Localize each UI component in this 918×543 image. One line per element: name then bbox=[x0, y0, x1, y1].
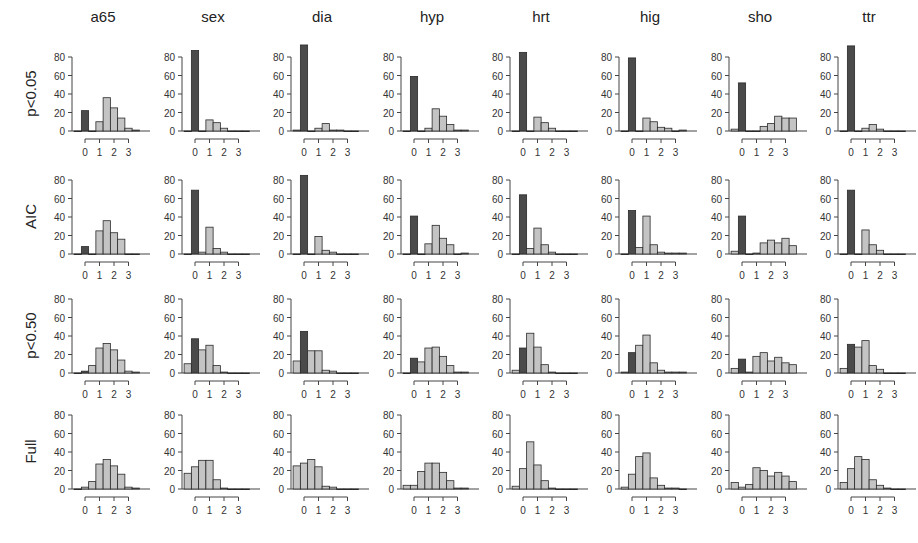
column-title: ttr bbox=[839, 8, 899, 25]
svg-text:0: 0 bbox=[192, 147, 198, 158]
svg-text:20: 20 bbox=[54, 466, 66, 477]
svg-text:2: 2 bbox=[877, 389, 883, 400]
svg-text:0: 0 bbox=[497, 484, 503, 495]
svg-text:1: 1 bbox=[97, 147, 103, 158]
svg-text:60: 60 bbox=[492, 194, 504, 205]
svg-text:20: 20 bbox=[164, 231, 176, 242]
svg-text:0: 0 bbox=[629, 270, 635, 281]
svg-text:1: 1 bbox=[97, 389, 103, 400]
histogram-panel: 0204060800123 bbox=[699, 49, 809, 164]
column-title: hig bbox=[620, 8, 680, 25]
histogram-panel: 0204060800123 bbox=[371, 172, 481, 287]
svg-text:0: 0 bbox=[192, 270, 198, 281]
svg-text:60: 60 bbox=[54, 194, 66, 205]
histogram-panel: 0204060800123 bbox=[42, 49, 152, 164]
column-title: dia bbox=[292, 8, 352, 25]
svg-text:1: 1 bbox=[535, 505, 541, 516]
svg-text:1: 1 bbox=[863, 270, 869, 281]
svg-text:40: 40 bbox=[820, 331, 832, 342]
histogram-panel: 0204060800123 bbox=[480, 407, 590, 522]
svg-text:80: 80 bbox=[492, 175, 504, 186]
svg-text:3: 3 bbox=[345, 147, 351, 158]
svg-text:80: 80 bbox=[492, 294, 504, 305]
histogram-panel: 0204060800123 bbox=[808, 407, 918, 522]
svg-text:60: 60 bbox=[492, 313, 504, 324]
svg-text:3: 3 bbox=[564, 389, 570, 400]
svg-text:1: 1 bbox=[207, 147, 213, 158]
svg-text:60: 60 bbox=[711, 71, 723, 82]
svg-text:0: 0 bbox=[739, 270, 745, 281]
svg-text:80: 80 bbox=[54, 410, 66, 421]
svg-text:1: 1 bbox=[426, 505, 432, 516]
svg-text:0: 0 bbox=[520, 270, 526, 281]
histogram-panel: 0204060800123 bbox=[152, 407, 262, 522]
svg-text:80: 80 bbox=[601, 175, 613, 186]
svg-text:20: 20 bbox=[820, 466, 832, 477]
svg-text:0: 0 bbox=[606, 484, 612, 495]
svg-text:2: 2 bbox=[111, 147, 117, 158]
column-title: sho bbox=[730, 8, 790, 25]
svg-text:3: 3 bbox=[673, 389, 679, 400]
svg-text:80: 80 bbox=[273, 175, 285, 186]
svg-text:60: 60 bbox=[273, 313, 285, 324]
svg-text:3: 3 bbox=[236, 147, 242, 158]
svg-text:20: 20 bbox=[164, 466, 176, 477]
svg-text:20: 20 bbox=[273, 350, 285, 361]
svg-text:2: 2 bbox=[330, 147, 336, 158]
svg-text:1: 1 bbox=[754, 147, 760, 158]
svg-text:60: 60 bbox=[383, 71, 395, 82]
svg-text:0: 0 bbox=[301, 147, 307, 158]
svg-text:3: 3 bbox=[236, 505, 242, 516]
svg-text:3: 3 bbox=[892, 505, 898, 516]
svg-text:60: 60 bbox=[383, 194, 395, 205]
svg-text:40: 40 bbox=[164, 447, 176, 458]
svg-text:1: 1 bbox=[535, 389, 541, 400]
svg-text:1: 1 bbox=[644, 505, 650, 516]
svg-text:0: 0 bbox=[59, 484, 65, 495]
svg-text:80: 80 bbox=[492, 52, 504, 63]
svg-text:2: 2 bbox=[440, 147, 446, 158]
svg-text:20: 20 bbox=[273, 108, 285, 119]
svg-text:1: 1 bbox=[316, 389, 322, 400]
svg-text:60: 60 bbox=[383, 313, 395, 324]
svg-text:80: 80 bbox=[383, 294, 395, 305]
svg-text:60: 60 bbox=[820, 71, 832, 82]
svg-text:40: 40 bbox=[601, 447, 613, 458]
svg-text:1: 1 bbox=[863, 389, 869, 400]
svg-text:40: 40 bbox=[54, 331, 66, 342]
column-title: sex bbox=[183, 8, 243, 25]
svg-text:0: 0 bbox=[716, 126, 722, 137]
svg-text:0: 0 bbox=[388, 368, 394, 379]
row-label: p<0.05 bbox=[22, 59, 39, 129]
svg-text:40: 40 bbox=[601, 89, 613, 100]
svg-text:3: 3 bbox=[673, 505, 679, 516]
svg-text:20: 20 bbox=[383, 108, 395, 119]
svg-text:60: 60 bbox=[601, 71, 613, 82]
svg-text:0: 0 bbox=[82, 147, 88, 158]
svg-text:1: 1 bbox=[644, 389, 650, 400]
svg-text:0: 0 bbox=[301, 505, 307, 516]
svg-text:80: 80 bbox=[54, 175, 66, 186]
svg-text:20: 20 bbox=[820, 231, 832, 242]
svg-text:0: 0 bbox=[497, 249, 503, 260]
histogram-panel: 0204060800123 bbox=[699, 407, 809, 522]
svg-text:0: 0 bbox=[497, 368, 503, 379]
svg-text:2: 2 bbox=[221, 270, 227, 281]
svg-text:1: 1 bbox=[316, 505, 322, 516]
svg-text:2: 2 bbox=[768, 270, 774, 281]
column-title: a65 bbox=[73, 8, 133, 25]
svg-text:0: 0 bbox=[848, 389, 854, 400]
histogram-panel: 0204060800123 bbox=[589, 407, 699, 522]
svg-text:0: 0 bbox=[59, 368, 65, 379]
svg-text:60: 60 bbox=[164, 429, 176, 440]
svg-text:2: 2 bbox=[111, 270, 117, 281]
svg-text:0: 0 bbox=[411, 389, 417, 400]
histogram-panel: 0204060800123 bbox=[480, 49, 590, 164]
svg-text:20: 20 bbox=[273, 466, 285, 477]
svg-text:80: 80 bbox=[820, 294, 832, 305]
svg-text:20: 20 bbox=[492, 108, 504, 119]
svg-text:80: 80 bbox=[711, 175, 723, 186]
svg-text:1: 1 bbox=[754, 270, 760, 281]
svg-text:0: 0 bbox=[716, 368, 722, 379]
svg-text:2: 2 bbox=[440, 389, 446, 400]
